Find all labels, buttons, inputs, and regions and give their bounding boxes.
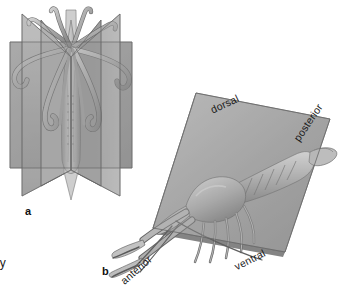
panel-a-squid-radial	[10, 9, 132, 200]
sagittal-plane-overlay	[153, 93, 330, 252]
symmetry-figure	[0, 0, 346, 292]
panel-b-crayfish-bilateral	[109, 93, 337, 277]
